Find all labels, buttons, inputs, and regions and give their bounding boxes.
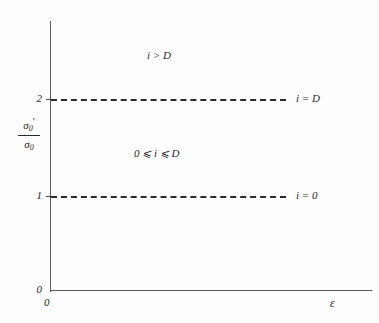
fraction-bar bbox=[18, 135, 40, 136]
region-label-upper: i > D bbox=[147, 50, 171, 61]
dashed-line-i-equals-D bbox=[51, 99, 286, 101]
x-tick-label-0: 0 bbox=[44, 297, 50, 308]
sigma-subscript-denominator: 0 bbox=[30, 143, 34, 152]
y-axis-label: σ0′ σ0 bbox=[14, 116, 44, 152]
y-axis-label-numerator: σ0′ bbox=[14, 116, 44, 134]
x-axis-label: ε bbox=[330, 297, 335, 309]
x-axis-line bbox=[50, 290, 372, 291]
y-tick-label-1: 1 bbox=[28, 190, 42, 201]
y-axis-label-denominator: σ0 bbox=[14, 137, 44, 152]
y-tick-label-2: 2 bbox=[28, 93, 42, 104]
figure-canvas: 2 1 0 0 σ0′ σ0 i = D i = 0 i > D 0 ⩽ i ⩽… bbox=[0, 0, 379, 323]
line-label-i-equals-D: i = D bbox=[296, 93, 320, 104]
y-tick-label-0: 0 bbox=[28, 284, 42, 295]
region-label-middle: 0 ⩽ i ⩽ D bbox=[134, 148, 180, 159]
dashed-line-i-equals-0 bbox=[51, 196, 286, 198]
y-axis-line bbox=[50, 21, 51, 292]
prime-mark: ′ bbox=[33, 116, 35, 127]
line-label-i-equals-0: i = 0 bbox=[296, 190, 317, 201]
